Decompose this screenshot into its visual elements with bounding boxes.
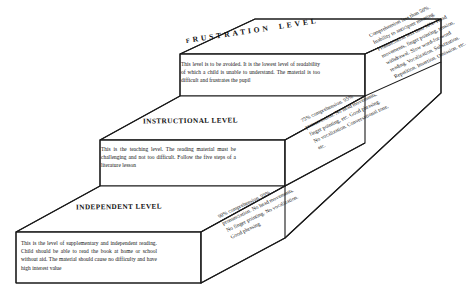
instructional-level-heading: INSTRUCTIONAL LEVEL bbox=[143, 117, 238, 126]
independent-level-description: This is the level of supplementary and i… bbox=[21, 239, 157, 272]
frustration-heading-rest: RUSTRATION bbox=[192, 23, 272, 44]
independent-level-heading: INDEPENDENT LEVEL bbox=[76, 203, 162, 212]
frustration-level-description: This level is to be avoided. It is the l… bbox=[181, 60, 320, 85]
instructional-level-description: This is the teaching level. The reading … bbox=[101, 145, 236, 170]
